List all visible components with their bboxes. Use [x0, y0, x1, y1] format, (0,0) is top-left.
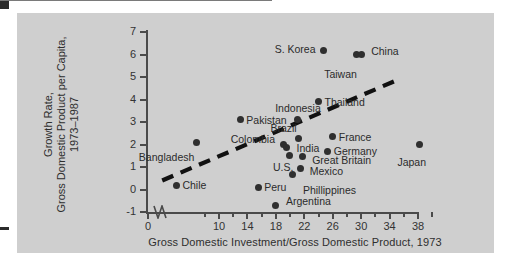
data-point-japan [416, 141, 423, 148]
x-tick-10 [218, 212, 220, 219]
x-minor-tick-8 [204, 212, 206, 217]
x-minor-tick-24 [318, 212, 320, 217]
data-point-bangladesh [193, 139, 200, 146]
x-tick-14 [246, 212, 248, 219]
x-tick-30 [360, 212, 362, 219]
x-minor-tick-16 [261, 212, 263, 217]
point-label-brazil: Brazil [270, 123, 296, 134]
x-tick-34 [389, 212, 391, 219]
y-tick-label-3: 3 [114, 116, 136, 127]
x-tick-label-14: 14 [235, 220, 259, 232]
data-point-peru [255, 184, 262, 191]
x-axis-title: Gross Domestic Investment/Gross Domestic… [130, 236, 460, 248]
x-minor-tick-40 [431, 212, 433, 217]
x-minor-tick-12 [232, 212, 234, 217]
y-tick-5 [140, 76, 146, 78]
point-label-mexico: Mexico [310, 166, 343, 177]
y-tick-3 [140, 121, 146, 123]
point-label-france: France [339, 132, 372, 143]
y-tick-label-0: 0 [114, 184, 136, 195]
x-minor-tick-20 [289, 212, 291, 217]
y-tick--1 [140, 211, 146, 213]
point-label-phillippines: Phillippines [303, 185, 356, 196]
data-point-u-s [286, 152, 293, 159]
point-label-colombia: Colombia [231, 134, 275, 145]
y-tick-label--1: -1 [114, 206, 136, 217]
x-minor-tick-28 [346, 212, 348, 217]
y-axis-title: Growth Rate, Gross Domestic Product per … [42, 30, 81, 220]
y-tick-label-6: 6 [114, 49, 136, 60]
x-tick-label-0: 0 [136, 220, 160, 232]
x-tick-26 [332, 212, 334, 219]
data-point-china [358, 51, 365, 58]
x-tick-38 [417, 212, 419, 219]
point-label-germany: Germany [334, 146, 377, 157]
x-tick-label-38: 38 [406, 220, 430, 232]
x-tick-label-10: 10 [207, 220, 231, 232]
x-tick-label-26: 26 [321, 220, 345, 232]
axis-break-icon [153, 205, 169, 219]
x-minor-tick-32 [374, 212, 376, 217]
x-axis-line [147, 212, 419, 214]
x-tick-label-22: 22 [292, 220, 316, 232]
point-label-india: India [297, 143, 320, 154]
data-point-argentina [272, 202, 279, 209]
x-tick-0 [147, 212, 149, 219]
point-label-thailand: Thailand [325, 97, 365, 108]
y-tick-label-2: 2 [114, 139, 136, 150]
x-tick-18 [275, 212, 277, 219]
point-label-chile: Chile [182, 180, 206, 191]
data-point-india [283, 144, 290, 151]
y-tick-2 [140, 144, 146, 146]
data-point-mexico [297, 165, 304, 172]
y-tick-1 [140, 166, 146, 168]
data-point-france [329, 133, 336, 140]
point-label-u-s: U.S. [273, 162, 293, 173]
point-label-argentina: Argentina [286, 196, 331, 207]
x-tick-label-34: 34 [378, 220, 402, 232]
point-label-taiwan: Taiwan [324, 69, 357, 80]
x-tick-label-18: 18 [264, 220, 288, 232]
data-point-s-korea [320, 47, 327, 54]
y-axis-title-line-2: Gross Domestic Product per Capita, [55, 30, 68, 220]
y-axis-title-line-3: 1973–1987 [68, 30, 81, 220]
y-axis-line [146, 30, 148, 214]
scatter-plot: 76543210-1 01014182226303438 ChileBangla… [0, 0, 511, 266]
y-tick-4 [140, 99, 146, 101]
point-label-china: China [371, 46, 398, 57]
x-tick-label-30: 30 [349, 220, 373, 232]
y-tick-6 [140, 54, 146, 56]
zero-reference-line [0, 0, 272, 1]
y-tick-label-5: 5 [114, 71, 136, 82]
y-tick-label-7: 7 [114, 26, 136, 37]
x-tick-22 [303, 212, 305, 219]
point-label-peru: Peru [264, 182, 286, 193]
data-point-chile [173, 182, 180, 189]
y-tick-label-4: 4 [114, 94, 136, 105]
point-label-s-korea: S. Korea [275, 44, 316, 55]
y-axis-title-line-1: Growth Rate, [42, 30, 55, 220]
point-label-bangladesh: Bangladesh [139, 152, 194, 163]
point-label-japan: Japan [397, 157, 426, 168]
x-minor-tick-36 [403, 212, 405, 217]
y-tick-7 [140, 31, 146, 33]
figure-page: 76543210-1 01014182226303438 ChileBangla… [0, 0, 511, 266]
y-tick-0 [140, 189, 146, 191]
data-point-great-britain [299, 153, 306, 160]
data-point-pakistan [237, 116, 244, 123]
y-tick-label-1: 1 [114, 161, 136, 172]
point-label-indonesia: Indonesia [275, 103, 321, 114]
